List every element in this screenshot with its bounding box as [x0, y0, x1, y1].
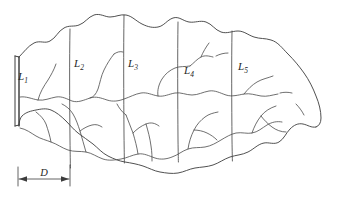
- dam-outlet-cap-top: [15, 56, 19, 57]
- stream-fragment-c: [280, 92, 292, 93]
- area-label-3-sub: 3: [133, 63, 138, 72]
- stream-tributary-l3-lower-d: [117, 104, 126, 115]
- area-label-1-base: L: [17, 70, 24, 82]
- area-label-4: L4: [183, 64, 194, 79]
- stream-tributary-l2-lower-branch: [80, 125, 102, 131]
- stream-tributary-l4-c: [201, 43, 209, 57]
- area-label-5: L5: [237, 60, 248, 75]
- stream-fragment-b: [216, 53, 228, 56]
- area-label-5-sub: 5: [244, 66, 248, 75]
- area-label-5-base: L: [237, 60, 244, 72]
- area-label-4-sub: 4: [190, 70, 194, 79]
- divider-line-3: [178, 22, 179, 162]
- stream-tributary-l5-lower-branch: [261, 116, 286, 132]
- stream-tributary-l4-lower: [188, 112, 218, 149]
- area-label-2: L2: [73, 57, 84, 72]
- stream-tributary-l1-upper: [38, 64, 56, 100]
- area-label-2-sub: 2: [80, 63, 84, 72]
- dam-outlet-cap-bottom: [15, 125, 19, 126]
- area-label-3: L3: [127, 57, 138, 72]
- divider-line-1: [70, 29, 71, 168]
- dimension-arrow-right: [61, 176, 69, 181]
- basin-outline-lower: [19, 109, 316, 174]
- watershed-drawing: L1 L2 L3 L4 L5 D: [0, 0, 339, 198]
- stream-tributary-l2-lower: [62, 104, 86, 152]
- divider-line-2: [124, 15, 125, 163]
- stream-tributary-l5-upper: [244, 76, 273, 94]
- dimension-arrow-left: [19, 176, 27, 181]
- stream-main-upper: [20, 91, 278, 102]
- stream-tributary-l4-lower-branch: [194, 130, 217, 140]
- stream-tributary-l4-b: [190, 56, 213, 66]
- area-label-4-base: L: [183, 64, 190, 76]
- watershed-figure: L1 L2 L3 L4 L5 D: [0, 0, 339, 198]
- stream-tributary-l2-a: [90, 54, 114, 98]
- stream-tributary-l3-lower-a: [126, 115, 138, 154]
- stream-tributary-l2-b: [114, 52, 123, 54]
- area-label-2-base: L: [73, 57, 80, 69]
- stream-fragment-a: [296, 104, 304, 115]
- dimension-label: D: [39, 167, 48, 178]
- area-label-1-sub: 1: [24, 76, 28, 85]
- area-label-3-base: L: [127, 57, 134, 69]
